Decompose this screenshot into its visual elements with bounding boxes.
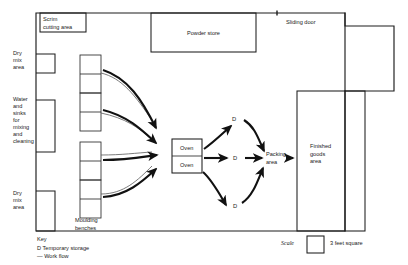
label-water-sinks-line7: cleaning — [13, 138, 34, 144]
label-water-sinks-line3: sinks — [13, 110, 26, 116]
workflow-arrow-storage-lower-to-packing — [242, 168, 263, 203]
storage-marker-lower: D — [233, 203, 237, 209]
key-heading: Key — [37, 236, 47, 242]
label-water-sinks-line1: Water — [13, 96, 28, 102]
label-water-sinks-line2: and — [13, 103, 22, 109]
alcove-dry-mix-lower — [36, 191, 55, 231]
label-dry-mix-upper-line1: Dry — [13, 50, 22, 56]
label-finished-goods-line3: area — [310, 158, 322, 164]
workflow-arrow-bench1-to-oven — [103, 70, 156, 128]
workflow-arrow-oven-to-storage-lower — [203, 172, 226, 205]
label-finished-goods-line1: Finished — [310, 143, 331, 149]
scale-label: Scale — [281, 240, 294, 246]
bench-group-3 — [80, 142, 101, 180]
label-moulding-benches-line1: Moulding — [75, 217, 98, 223]
key-entry-temporary-storage: D Temporary storage — [37, 245, 89, 251]
label-sliding-door: Sliding door — [286, 19, 316, 25]
label-packing-area-line2: area — [266, 159, 278, 165]
label-water-sinks-line4: for — [13, 117, 20, 123]
workflow-arrow-bench3-to-oven — [103, 155, 157, 160]
storage-marker-upper: D — [232, 116, 236, 122]
label-finished-goods-line2: goods — [310, 151, 325, 157]
label-water-sinks-line5: mixing — [13, 124, 29, 130]
workflow-arrow-storage-upper-to-packing — [244, 120, 264, 151]
workflow-arrow-oven-to-storage-upper — [204, 126, 231, 149]
label-oven-lower: Oven — [180, 162, 193, 168]
room-finished-goods-area — [297, 91, 365, 231]
label-dry-mix-upper-line3: area — [13, 64, 25, 70]
scale-caption: 3 feet square — [330, 240, 363, 246]
label-scrim-cutting-area-line1: Scrim — [43, 16, 58, 22]
key-entry-work-flow: — Work flow — [37, 253, 70, 259]
storage-marker-middle: D — [233, 155, 237, 161]
label-dry-mix-upper-line2: mix — [13, 57, 22, 63]
label-scrim-cutting-area-line2: cutting area — [43, 24, 73, 30]
label-powder-store: Powder store — [187, 30, 220, 36]
label-water-sinks-line6: and — [13, 131, 22, 137]
outer-wall-outline — [36, 13, 394, 231]
label-dry-mix-lower-line1: Dry — [13, 190, 22, 196]
label-dry-mix-lower-line3: area — [13, 204, 25, 210]
bench-group-1 — [80, 55, 101, 93]
label-dry-mix-lower-line2: mix — [13, 197, 22, 203]
floor-plan-diagram: Scrim cutting area Powder store Sliding … — [0, 0, 408, 265]
bench-group-4 — [80, 180, 101, 218]
label-moulding-benches-line2: benches — [75, 225, 96, 231]
alcove-water-sinks — [36, 100, 55, 152]
bench-group-2 — [80, 93, 101, 131]
floor-plan-canvas: Scrim cutting area Powder store Sliding … — [0, 0, 408, 265]
label-packing-area-line1: Packing — [266, 151, 286, 157]
alcove-dry-mix-upper — [36, 54, 55, 73]
label-oven-upper: Oven — [180, 145, 193, 151]
scale-square-icon — [307, 236, 324, 253]
